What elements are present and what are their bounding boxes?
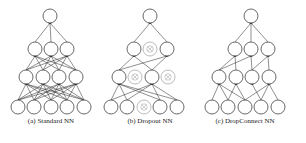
neuron: [11, 100, 25, 114]
connection-edge: [269, 84, 278, 100]
neuron: [221, 100, 235, 114]
neuron: [212, 70, 226, 84]
neuron: [244, 42, 258, 56]
panel-dropconnect-nn: [205, 9, 285, 114]
connection-edge: [26, 56, 35, 70]
neuron: [262, 70, 276, 84]
connection-edge: [219, 84, 228, 100]
neuron: [19, 70, 33, 84]
connection-edge: [245, 84, 269, 100]
neuron: [28, 42, 42, 56]
neuron: [160, 42, 174, 56]
caption-dropout-nn: (b) Dropout NN: [127, 117, 172, 125]
connection-edge: [228, 84, 236, 100]
connection-edge: [212, 84, 219, 100]
neuron: [205, 100, 219, 114]
neuron: [254, 100, 268, 114]
caption-dropconnect-nn: (c) DropConnect NN: [215, 117, 274, 125]
neuron: [261, 42, 275, 56]
neuron: [69, 70, 83, 84]
connection-edge: [67, 56, 76, 70]
neuron: [44, 42, 58, 56]
connection-edge: [134, 23, 150, 42]
connection-edge: [236, 84, 245, 100]
connection-edge: [50, 23, 51, 42]
connection-edge: [251, 56, 252, 70]
panel-dropout-nn: [104, 9, 184, 114]
connection-edge: [50, 23, 67, 42]
neuron: [104, 100, 118, 114]
connection-edge: [219, 56, 235, 70]
connection-edge: [235, 23, 251, 42]
neuron: [143, 9, 157, 23]
neuron: [44, 100, 58, 114]
neuron: [271, 100, 285, 114]
connection-edge: [251, 23, 268, 42]
neuron: [153, 100, 167, 114]
neuron: [77, 100, 91, 114]
neuron: [238, 100, 252, 114]
neuron: [245, 70, 259, 84]
connection-edge: [18, 84, 59, 100]
neuron: [229, 70, 243, 84]
connection-edge: [252, 84, 261, 100]
connection-edge: [252, 56, 268, 70]
caption-standard-nn: (a) Standard NN: [28, 117, 74, 125]
panel-standard-nn: [11, 9, 91, 114]
connection-edge: [268, 56, 269, 70]
neuron: [43, 9, 57, 23]
neuron: [52, 70, 66, 84]
connection-edge: [35, 23, 50, 42]
neuron: [112, 70, 126, 84]
neuron: [127, 42, 141, 56]
neuron: [244, 9, 258, 23]
neuron: [27, 100, 41, 114]
neuron: [120, 100, 134, 114]
neuron: [228, 42, 242, 56]
connection-edge: [111, 84, 152, 100]
neuron: [145, 70, 159, 84]
neuron: [170, 100, 184, 114]
neuron: [36, 70, 50, 84]
neuron: [60, 100, 74, 114]
neuron: [60, 42, 74, 56]
connection-edge: [150, 23, 167, 42]
